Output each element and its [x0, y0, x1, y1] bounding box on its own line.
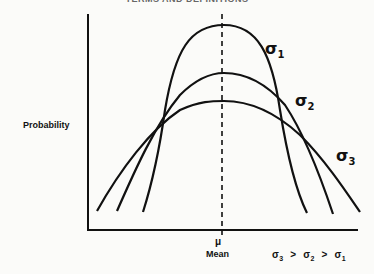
sigma-relation: σ3 > σ2 > σ1	[272, 249, 346, 262]
sigma-subscript: 1	[277, 49, 284, 60]
sigma-subscript: 3	[348, 156, 355, 167]
greater-than: >	[322, 249, 328, 260]
label-sigma-2: σ2	[295, 91, 314, 112]
label-sigma-1: σ1	[265, 39, 284, 60]
label-sigma-3: σ3	[336, 146, 355, 167]
sigma-symbol: σ	[295, 91, 307, 110]
sub-2: 2	[311, 255, 315, 262]
curve-sigma-3	[97, 101, 360, 212]
sub-3: 3	[279, 255, 283, 262]
y-axis-label: Probability	[23, 120, 70, 130]
sub-1: 1	[342, 255, 346, 262]
sigma-subscript: 2	[307, 101, 314, 112]
normal-curves-diagram	[0, 0, 374, 274]
greater-than: >	[290, 249, 296, 260]
sigma-symbol: σ	[265, 39, 277, 58]
mean-symbol: μ	[215, 236, 221, 247]
sigma-1: σ	[334, 249, 341, 260]
sigma-2: σ	[303, 249, 310, 260]
sigma-symbol: σ	[336, 146, 348, 165]
mean-label: Mean	[206, 249, 229, 259]
